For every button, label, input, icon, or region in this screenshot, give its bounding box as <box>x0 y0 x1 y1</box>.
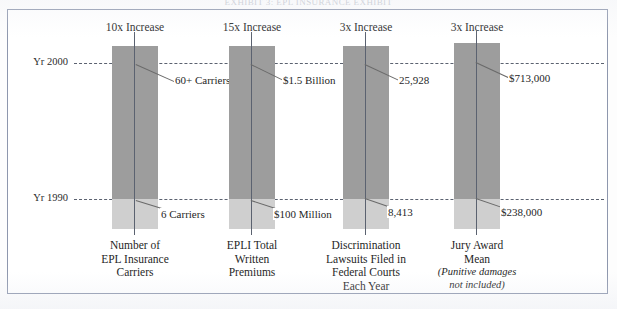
value-callout-3-2000: 25,928 <box>398 74 430 86</box>
category-label-4-line1: Jury Award <box>451 239 503 251</box>
category-label-2-line1: EPLI Total <box>227 239 277 251</box>
category-label-3-line2: Lawsuits Filed in <box>326 253 406 265</box>
category-label-1-line2: EPL Insurance <box>101 253 169 265</box>
value-callout-2-2000: $1.5 Billion <box>282 74 337 86</box>
exhibit-chart-root: EXHIBIT 3: EPL INSURANCE EXHIBIT Yr 2000… <box>0 0 617 309</box>
axis-label-yr-1990: Yr 1990 <box>10 192 68 203</box>
bar-stem-1 <box>134 32 135 235</box>
value-callout-4-2000: $713,000 <box>508 72 551 84</box>
bar-tail-1 <box>112 199 158 229</box>
category-label-4-line4: not included) <box>407 279 547 292</box>
category-label-1-line1: Number of <box>110 239 160 251</box>
category-label-2-line2: Written <box>235 253 270 265</box>
bar-fill-4 <box>454 43 500 199</box>
value-callout-1-1990: 6 Carriers <box>160 208 206 220</box>
value-callout-1-2000: 60+ Carriers <box>174 74 231 86</box>
category-label-4: Jury Award Mean (Punitive damages not in… <box>407 239 547 291</box>
category-label-3-line1: Discrimination <box>332 239 401 251</box>
value-callout-2-1990: $100 Million <box>273 208 333 220</box>
value-callout-4-1990: $238,000 <box>500 206 543 218</box>
category-label-2-line3: Premiums <box>229 266 276 278</box>
value-callout-3-1990: 8,413 <box>387 206 414 218</box>
bar-stem-4 <box>476 30 477 235</box>
axis-label-yr-2000: Yr 2000 <box>10 56 68 67</box>
category-label-3-line3: Federal Courts <box>332 266 400 278</box>
bar-tail-2 <box>229 199 275 229</box>
category-label-1-line3: Carriers <box>116 266 153 278</box>
bar-fill-2 <box>229 46 275 199</box>
exhibit-title: EXHIBIT 3: EPL INSURANCE EXHIBIT <box>0 0 617 8</box>
category-label-4-line3: (Punitive damages <box>407 266 547 279</box>
chart-frame: Yr 2000 Yr 1990 10x Increase 60+ Carrier… <box>7 9 608 294</box>
category-label-4-line2: Mean <box>464 253 490 265</box>
bar-fill-1 <box>112 46 158 199</box>
bar-fill-3 <box>343 46 389 199</box>
bar-stem-3 <box>365 32 366 235</box>
bar-stem-2 <box>251 32 252 235</box>
plot-area: Yr 2000 Yr 1990 10x Increase 60+ Carrier… <box>8 10 609 295</box>
category-label-3-line4: Each Year <box>343 280 390 292</box>
